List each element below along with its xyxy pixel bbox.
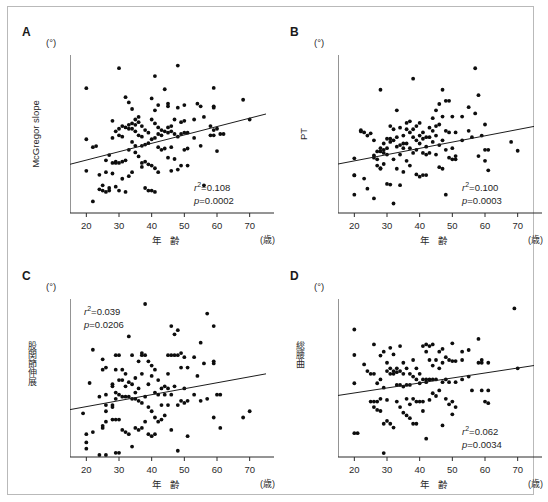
data-point	[104, 453, 108, 457]
data-point	[98, 395, 102, 399]
data-point	[424, 153, 428, 157]
data-point	[137, 133, 141, 137]
data-point	[104, 409, 108, 413]
data-point	[150, 434, 154, 438]
data-point	[444, 397, 448, 401]
data-point	[411, 358, 415, 362]
data-point	[163, 393, 167, 397]
y-axis-unit: (°)	[314, 281, 324, 292]
data-point	[137, 115, 141, 119]
data-point	[143, 302, 147, 306]
data-point	[395, 167, 399, 171]
x-tick-label: 20	[81, 464, 92, 475]
data-point	[140, 135, 144, 139]
data-point	[133, 151, 137, 155]
x-tick-label: 30	[114, 464, 125, 475]
y-axis-label: 総腰曲	[294, 341, 305, 368]
data-point	[156, 126, 160, 130]
r-squared-text: r2=0.100	[462, 179, 502, 195]
data-point	[84, 137, 88, 141]
data-point	[124, 430, 128, 434]
data-point	[94, 144, 98, 148]
data-point	[166, 386, 170, 390]
data-point	[182, 401, 186, 405]
data-point	[398, 405, 402, 409]
data-point	[460, 358, 464, 362]
data-point	[147, 405, 151, 409]
data-point	[408, 164, 412, 168]
x-axis-label: 年 齢	[420, 233, 450, 247]
data-point	[140, 401, 144, 405]
data-point	[179, 164, 183, 168]
data-point	[375, 408, 379, 412]
data-point	[192, 355, 196, 359]
data-point	[192, 118, 196, 122]
data-point	[398, 369, 402, 373]
data-point	[130, 122, 134, 126]
x-tick-label: 40	[414, 220, 425, 231]
data-point	[137, 399, 141, 403]
data-point	[173, 384, 177, 388]
data-point	[120, 428, 124, 432]
data-point	[156, 103, 160, 107]
y-axis-unit: (°)	[314, 37, 324, 48]
data-point	[398, 126, 402, 130]
data-point	[441, 138, 445, 142]
data-point	[218, 393, 222, 397]
data-point	[421, 137, 425, 141]
data-point	[169, 145, 173, 149]
data-point	[163, 87, 167, 91]
data-point	[111, 418, 115, 422]
data-point	[415, 422, 419, 426]
x-axis-label: 年 齢	[420, 477, 450, 491]
data-point	[454, 405, 458, 409]
data-point	[405, 159, 409, 163]
data-point	[418, 134, 422, 138]
data-point	[130, 382, 134, 386]
data-point	[428, 377, 432, 381]
data-point	[101, 189, 105, 193]
x-tick-label: 50	[447, 464, 458, 475]
x-tick-label: 60	[480, 464, 491, 475]
data-point	[372, 138, 376, 142]
data-point	[182, 131, 186, 135]
data-point	[486, 148, 490, 152]
x-tick-label: 40	[146, 464, 157, 475]
data-point	[388, 366, 392, 370]
data-point	[379, 354, 383, 358]
data-point	[160, 418, 164, 422]
data-point	[111, 161, 115, 165]
x-tick-label: 60	[212, 220, 223, 231]
data-point	[179, 120, 183, 124]
data-point	[372, 400, 376, 404]
data-point	[385, 182, 389, 186]
data-point	[421, 173, 425, 177]
data-point	[418, 372, 422, 376]
data-point	[477, 154, 481, 158]
data-point	[411, 77, 415, 81]
data-point	[156, 420, 160, 424]
data-point	[160, 128, 164, 132]
data-point	[424, 173, 428, 177]
data-point	[369, 400, 373, 404]
data-point	[166, 372, 170, 376]
data-point	[173, 118, 177, 122]
data-point	[405, 121, 409, 125]
data-point	[104, 393, 108, 397]
data-point	[186, 399, 190, 403]
data-point	[379, 377, 383, 381]
data-point	[369, 372, 373, 376]
data-point	[153, 190, 157, 194]
data-point	[401, 134, 405, 138]
x-axis-unit: (歳)	[528, 477, 543, 490]
data-point	[166, 131, 170, 135]
data-point	[215, 149, 219, 153]
data-point	[205, 312, 209, 316]
data-point	[127, 432, 131, 436]
data-point	[147, 131, 151, 135]
data-point	[382, 451, 386, 455]
data-point	[415, 366, 419, 370]
data-point	[104, 366, 108, 370]
data-point	[176, 64, 180, 68]
data-point	[437, 165, 441, 169]
